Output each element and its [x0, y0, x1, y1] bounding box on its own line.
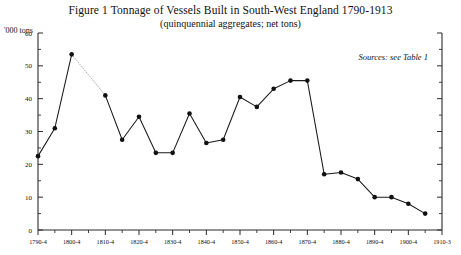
x-tick-label: 1820-4	[130, 238, 148, 245]
x-tick-label: 1860-4	[265, 238, 283, 245]
x-tick-label: 1870-4	[299, 238, 317, 245]
data-point-marker	[103, 93, 108, 98]
y-tick-label: 50	[25, 62, 33, 70]
x-tick-label: 1810-4	[97, 238, 115, 245]
data-point-marker	[288, 78, 293, 83]
data-point-marker	[187, 111, 192, 116]
x-tick-label: 1790-4	[29, 238, 47, 245]
data-point-marker	[120, 137, 125, 142]
data-point-marker	[389, 195, 394, 200]
series-line-interpolated	[72, 54, 106, 95]
y-tick-label: 0	[29, 227, 33, 235]
data-point-marker	[255, 105, 260, 110]
y-tick-label: 60	[25, 30, 33, 38]
x-tick-label: 1900-4	[400, 238, 418, 245]
data-point-marker	[406, 201, 411, 206]
data-point-marker	[305, 78, 310, 83]
y-tick-label: 20	[25, 161, 33, 169]
y-tick-label: 10	[25, 194, 33, 202]
data-point-marker	[372, 195, 377, 200]
x-tick-label: 1800-4	[63, 238, 81, 245]
x-tick-label: 1840-4	[198, 238, 216, 245]
data-point-marker	[53, 126, 58, 131]
x-tick-label: 1880-4	[332, 238, 350, 245]
x-tick-label: 1850-4	[231, 238, 249, 245]
y-tick-label: 30	[25, 128, 33, 136]
data-point-marker	[339, 170, 344, 175]
data-point-marker	[204, 141, 209, 146]
data-point-marker	[322, 172, 327, 177]
data-point-marker	[221, 137, 226, 142]
x-tick-label: 1830-4	[164, 238, 182, 245]
y-tick-label: 40	[25, 95, 33, 103]
data-point-marker	[423, 211, 428, 216]
line-chart-plot: 01020304050601790-41800-41810-41820-4183…	[0, 0, 461, 255]
data-point-marker	[137, 114, 142, 119]
series-line-segment	[38, 54, 72, 156]
data-point-marker	[170, 151, 175, 156]
data-point-marker	[238, 95, 243, 100]
x-tick-label: 1910-3	[433, 238, 451, 245]
data-point-marker	[356, 177, 361, 182]
data-point-marker	[271, 87, 276, 92]
data-point-marker	[69, 52, 74, 57]
data-point-marker	[36, 154, 41, 159]
series-line-segment	[105, 81, 425, 214]
data-point-marker	[154, 151, 159, 156]
figure-container: Figure 1 Tonnage of Vessels Built in Sou…	[0, 0, 461, 255]
x-tick-label: 1890-4	[366, 238, 384, 245]
